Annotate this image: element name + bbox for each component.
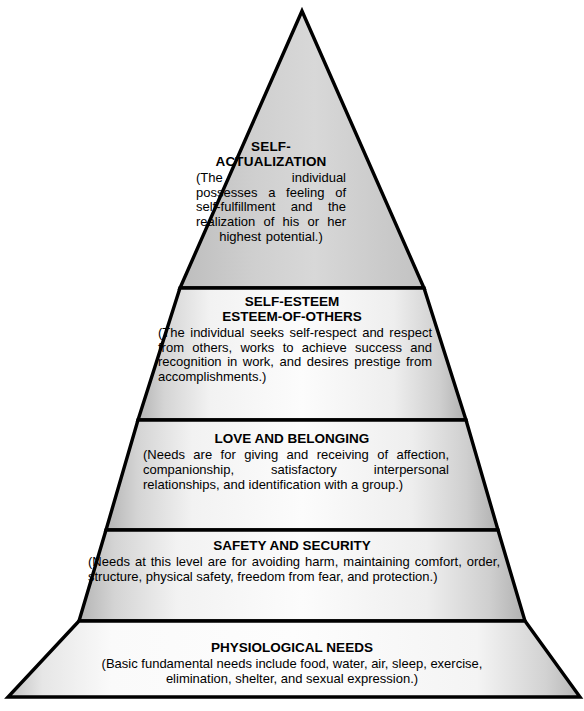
tier-1-description: (The individual possesses a feeling of s…	[196, 171, 346, 245]
tier-5-title: PHYSIOLOGICAL NEEDS	[52, 640, 532, 655]
tier-2-label-group: SELF-ESTEEM ESTEEM-OF-OTHERS (The indivi…	[152, 294, 432, 385]
tier-1-title: SELF- ACTUALIZATION	[196, 139, 346, 170]
tier-5-description: (Basic fundamental needs include food, w…	[52, 657, 532, 687]
tier-2-description: (The individual seeks self-respect and r…	[152, 326, 432, 385]
tier-4-title: SAFETY AND SECURITY	[84, 538, 500, 553]
tier-1-label-group: SELF- ACTUALIZATION (The individual poss…	[196, 139, 346, 245]
tier-2-title: SELF-ESTEEM ESTEEM-OF-OTHERS	[152, 294, 432, 325]
tier-3-label-group: LOVE AND BELONGING (Needs are for giving…	[135, 431, 449, 493]
tier-3-description: (Needs are for giving and receiving of a…	[135, 448, 449, 492]
tier-5-label-group: PHYSIOLOGICAL NEEDS (Basic fundamental n…	[52, 640, 532, 687]
tier-4-label-group: SAFETY AND SECURITY (Needs at this level…	[84, 538, 500, 585]
tier-4-description: (Needs at this level are for avoiding ha…	[84, 555, 500, 585]
tier-3-title: LOVE AND BELONGING	[135, 431, 449, 446]
maslow-pyramid-diagram: SELF- ACTUALIZATION (The individual poss…	[0, 0, 584, 711]
